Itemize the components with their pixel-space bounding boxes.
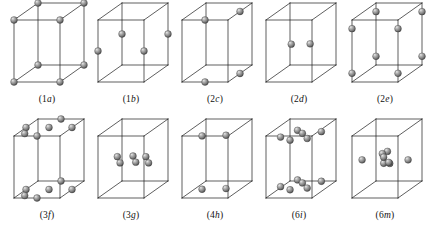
atom-sphere [277,183,284,190]
unit-cell-diagram [4,118,90,210]
atom-sphere [117,160,124,167]
caption-suffix: ) [51,210,54,220]
cell-edge [266,181,290,198]
atom-sphere [142,153,149,160]
cell-edge [312,3,336,20]
unit-cell-diagram [342,118,428,210]
cell-caption: (4h) [172,210,258,220]
cell-caption: (1a) [4,94,90,104]
unit-cell-i: (6i) [256,118,342,230]
atom-sphere [318,178,325,185]
cell-edge [60,3,84,20]
unit-cell-diagram [172,2,258,94]
cell-edge [14,3,38,20]
atom-sphere [405,156,412,163]
atom-sphere [114,153,121,160]
atom-sphere [307,40,314,47]
cell-edge [144,181,168,198]
caption-prefix: (3 [40,210,48,220]
atom-sphere [21,130,28,137]
cell-edge [312,65,336,82]
caption-suffix: ) [136,94,139,104]
unit-cell-diagram [172,118,258,210]
caption-prefix: (6 [292,210,300,220]
atom-group [95,31,172,55]
atom-sphere [34,195,41,202]
cell-edge [352,3,376,20]
caption-wyckoff-letter: m [384,210,391,220]
atom-sphere [419,8,426,15]
caption-suffix: ) [303,210,306,220]
atom-group [199,132,230,193]
unit-cell-h: (4h) [172,118,258,230]
atom-sphere [419,53,426,60]
unit-cell-diagram [256,118,342,210]
caption-suffix: ) [220,210,223,220]
cell-caption: (2c) [172,94,258,104]
atom-sphere [277,134,284,141]
atom-sphere [69,124,76,131]
caption-prefix: (1 [123,94,131,104]
cell-caption: (3f) [4,210,90,220]
atom-sphere [202,79,209,86]
cell-wireframe [266,3,336,82]
caption-suffix: ) [136,210,139,220]
atom-sphere [349,70,356,77]
atom-group [288,40,314,47]
cell-edge [228,181,252,198]
atom-sphere [141,48,148,55]
cell-edge [144,65,168,82]
cell-edge [352,181,376,198]
atom-sphere [35,62,42,69]
wyckoff-position-figure: (1a)(1b)(2c)(2d)(2e)(3f)(3g)(4h)(6i)(6m) [0,0,434,239]
cell-edge [144,3,168,20]
atom-sphere [145,160,152,167]
caption-prefix: (4 [207,210,215,220]
caption-prefix: (6 [376,210,384,220]
atom-sphere [81,62,88,69]
atom-sphere [304,135,311,142]
caption-suffix: ) [220,94,223,104]
cell-edge [98,3,122,20]
caption-suffix: ) [391,210,394,220]
atom-sphere [11,79,18,86]
atom-sphere [35,0,42,6]
atom-group [359,148,412,167]
atom-sphere [287,186,294,193]
atom-sphere [395,25,402,32]
atom-sphere [287,137,294,144]
caption-prefix: (2 [291,94,299,104]
cell-edge [398,65,422,82]
unit-cell-c: (2c) [172,2,258,114]
atom-sphere [223,185,230,192]
cell-wireframe [98,3,168,82]
cell-caption: (6m) [342,210,428,220]
atom-sphere [359,156,366,163]
cell-wireframe [182,119,252,198]
caption-suffix: ) [390,94,393,104]
atom-sphere [380,154,387,161]
unit-cell-diagram [342,2,428,94]
cell-edge [98,65,122,82]
atom-group [114,153,152,167]
cell-wireframe [14,3,84,82]
cell-edge [266,65,290,82]
unit-cell-f: (3f) [4,118,90,230]
atom-sphere [202,17,209,24]
cell-edge [398,181,422,198]
caption-prefix: (1 [39,94,47,104]
atom-sphere [199,186,206,193]
atom-sphere [223,132,230,139]
atom-sphere [304,185,311,192]
atom-sphere [23,124,30,131]
cell-edge [182,65,206,82]
atom-sphere [58,178,65,185]
cell-caption: (1b) [88,94,174,104]
unit-cell-b: (1b) [88,2,174,114]
atom-sphere [385,159,392,166]
atom-sphere [46,124,53,131]
atom-group [349,8,426,76]
atom-sphere [299,130,306,137]
atom-sphere [132,159,139,166]
atom-sphere [237,8,244,15]
